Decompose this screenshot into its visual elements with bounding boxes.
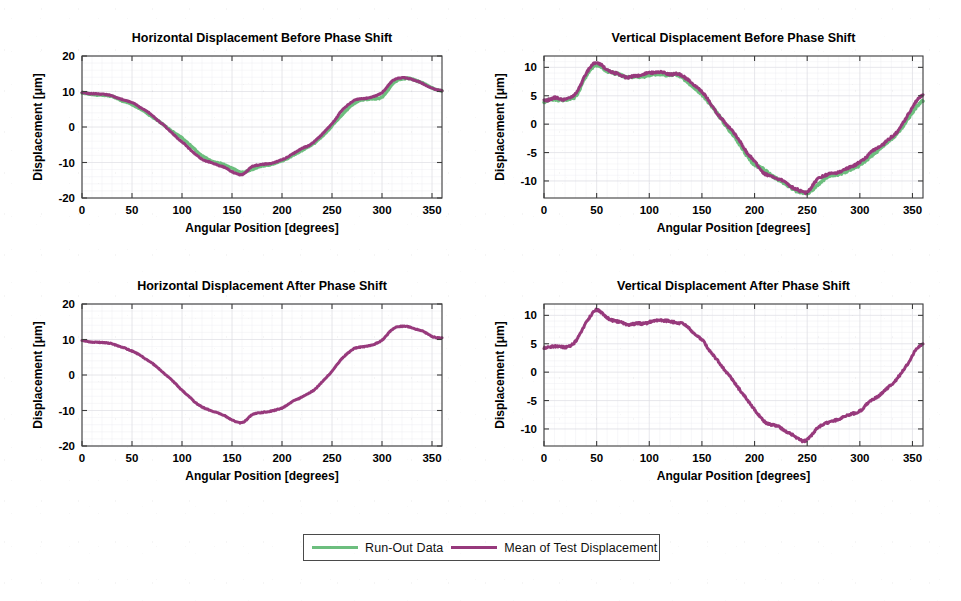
y-tick-label: 10 (62, 334, 75, 346)
x-tick-label: 150 (222, 452, 241, 464)
x-tick-label: 300 (850, 204, 869, 216)
y-tick-label: 10 (62, 86, 75, 98)
y-tick-label: 20 (62, 298, 75, 310)
y-tick-label: -20 (58, 440, 75, 452)
y-axis-label: Displacement [μm] (493, 321, 507, 428)
chart-title: Vertical Displacement Before Phase Shift (612, 31, 857, 45)
x-tick-label: 200 (745, 204, 764, 216)
x-tick-label: 50 (590, 204, 603, 216)
legend-swatch-mean-test (451, 546, 497, 549)
x-tick-label: 0 (541, 204, 547, 216)
y-tick-label: 0 (69, 121, 75, 133)
subplot-vertical-after: Vertical Displacement After Phase Shift0… (462, 258, 961, 508)
y-tick-label: 5 (531, 90, 538, 102)
x-tick-label: 200 (272, 452, 291, 464)
figure-legend: Run-Out Data Mean of Test Displacement (303, 534, 660, 561)
x-tick-label: 100 (640, 452, 659, 464)
x-tick-label: 350 (903, 452, 922, 464)
chart-svg: Vertical Displacement Before Phase Shift… (462, 10, 961, 260)
x-tick-label: 150 (692, 452, 711, 464)
legend-entry-run-out: Run-Out Data (304, 535, 443, 560)
y-tick-label: 10 (524, 309, 537, 321)
y-tick-label: 5 (531, 338, 538, 350)
chart-svg: Horizontal Displacement After Phase Shif… (0, 258, 480, 508)
x-tick-label: 100 (640, 204, 659, 216)
x-tick-label: 250 (322, 204, 341, 216)
y-tick-label: -10 (58, 157, 75, 169)
chart-title: Vertical Displacement After Phase Shift (617, 279, 851, 293)
subplot-horizontal-after: Horizontal Displacement After Phase Shif… (0, 258, 480, 508)
legend-entry-mean-test: Mean of Test Displacement (443, 535, 657, 560)
chart-title: Horizontal Displacement Before Phase Shi… (132, 31, 393, 45)
y-tick-label: -10 (520, 175, 537, 187)
x-tick-label: 0 (79, 204, 85, 216)
y-axis-label: Displacement [μm] (31, 73, 45, 180)
subplot-horizontal-before: Horizontal Displacement Before Phase Shi… (0, 10, 480, 260)
x-tick-label: 150 (222, 204, 241, 216)
y-tick-label: -10 (520, 423, 537, 435)
legend-label-run-out: Run-Out Data (365, 541, 443, 555)
chart-svg: Vertical Displacement After Phase Shift0… (462, 258, 961, 508)
x-axis-label: Angular Position [degrees] (657, 469, 810, 483)
y-tick-label: -20 (58, 192, 75, 204)
x-tick-label: 350 (422, 452, 441, 464)
y-tick-label: 0 (531, 118, 537, 130)
x-tick-label: 250 (798, 452, 817, 464)
x-axis-label: Angular Position [degrees] (185, 221, 338, 235)
x-tick-label: 100 (172, 204, 191, 216)
figure-canvas: Horizontal Displacement Before Phase Shi… (0, 0, 961, 601)
x-tick-label: 200 (745, 452, 764, 464)
gridlines (82, 304, 442, 446)
chart-svg: Horizontal Displacement Before Phase Shi… (0, 10, 480, 260)
x-tick-label: 200 (272, 204, 291, 216)
y-tick-label: 10 (524, 61, 537, 73)
legend-label-mean-test: Mean of Test Displacement (504, 541, 657, 555)
x-axis-label: Angular Position [degrees] (657, 221, 810, 235)
x-tick-label: 150 (692, 204, 711, 216)
x-tick-label: 250 (798, 204, 817, 216)
y-axis-label: Displacement [μm] (493, 73, 507, 180)
x-tick-label: 0 (541, 452, 547, 464)
x-tick-label: 300 (372, 452, 391, 464)
y-axis-label: Displacement [μm] (31, 321, 45, 428)
x-tick-label: 350 (903, 204, 922, 216)
x-tick-label: 0 (79, 452, 85, 464)
legend-swatch-run-out (312, 546, 358, 549)
x-tick-label: 300 (850, 452, 869, 464)
y-tick-label: -5 (527, 147, 538, 159)
x-axis-label: Angular Position [degrees] (185, 469, 338, 483)
y-tick-label: 0 (531, 366, 537, 378)
y-tick-label: -10 (58, 405, 75, 417)
subplot-vertical-before: Vertical Displacement Before Phase Shift… (462, 10, 961, 260)
x-tick-label: 50 (126, 452, 139, 464)
x-tick-label: 50 (126, 204, 139, 216)
x-tick-label: 300 (372, 204, 391, 216)
x-tick-label: 350 (422, 204, 441, 216)
y-tick-label: -5 (527, 395, 538, 407)
chart-title: Horizontal Displacement After Phase Shif… (137, 279, 387, 293)
y-tick-label: 0 (69, 369, 75, 381)
x-tick-label: 250 (322, 452, 341, 464)
x-tick-label: 100 (172, 452, 191, 464)
gridlines (82, 56, 442, 198)
x-tick-label: 50 (590, 452, 603, 464)
y-tick-label: 20 (62, 50, 75, 62)
